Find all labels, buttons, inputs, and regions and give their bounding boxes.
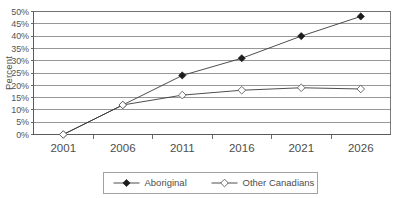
y-axis-tick-label: 35% <box>11 44 29 54</box>
x-axis-group: 200120062011201620212026 <box>50 135 373 154</box>
y-axis-tick-label: 0% <box>16 130 29 140</box>
x-axis-tick-label: 2006 <box>110 142 136 154</box>
y-axis-tick-label: 10% <box>11 105 29 115</box>
y-axis-tick-label: 25% <box>11 68 29 78</box>
series-line-other-canadians <box>63 88 361 135</box>
data-point-marker <box>238 86 246 94</box>
x-axis-tick-label: 2011 <box>170 142 195 154</box>
data-point-marker <box>119 101 127 109</box>
data-point-marker <box>298 33 305 40</box>
y-axis-tick-label: 15% <box>11 93 29 103</box>
y-gridlines-group: 0%5%10%15%20%25%30%35%40%45%50% <box>11 7 390 140</box>
legend-label: Aboriginal <box>145 177 187 188</box>
series-other-canadians <box>59 84 364 138</box>
y-axis-title: Percent <box>3 56 14 90</box>
y-axis-tick-label: 30% <box>11 56 29 66</box>
chart-canvas: 0%5%10%15%20%25%30%35%40%45%50%200120062… <box>0 0 404 198</box>
data-point-marker <box>357 13 364 20</box>
y-axis-tick-label: 20% <box>11 81 29 91</box>
x-axis-tick-label: 2026 <box>348 142 374 154</box>
y-axis-tick-label: 45% <box>11 19 29 29</box>
series-line-aboriginal <box>63 16 361 134</box>
chart-legend: AboriginalOther Canadians <box>104 173 318 194</box>
x-axis-tick-label: 2021 <box>288 142 314 154</box>
y-axis-tick-label: 40% <box>11 31 29 41</box>
series-aboriginal <box>60 13 365 138</box>
data-point-marker <box>59 131 67 139</box>
x-axis-tick-label: 2001 <box>50 142 76 154</box>
data-point-marker <box>357 85 365 93</box>
y-axis-tick-label: 5% <box>16 117 29 127</box>
legend-label: Other Canadians <box>243 177 315 188</box>
y-axis-tick-label: 50% <box>11 7 29 17</box>
line-chart: 0%5%10%15%20%25%30%35%40%45%50%200120062… <box>0 0 404 198</box>
x-axis-tick-label: 2016 <box>229 142 255 154</box>
